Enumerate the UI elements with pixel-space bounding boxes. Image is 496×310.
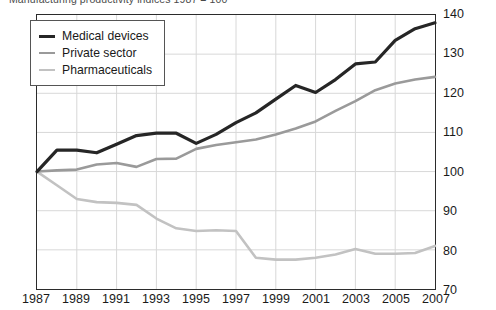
y-tick-label: 100 <box>443 165 464 179</box>
x-tick-label: 1991 <box>102 292 130 306</box>
legend-item[interactable]: Private sector <box>39 45 152 61</box>
x-tick-label: 1993 <box>142 292 170 306</box>
x-tick-label: 1995 <box>182 292 210 306</box>
y-tick-label: 110 <box>443 125 463 139</box>
legend-line-swatch-icon <box>39 35 55 38</box>
legend-line-swatch-icon <box>39 69 55 71</box>
series-line <box>37 172 435 260</box>
legend-line-swatch-icon <box>39 52 55 54</box>
legend-item[interactable]: Medical devices <box>39 28 152 44</box>
x-tick-label: 1997 <box>222 292 250 306</box>
legend-item-label: Medical devices <box>62 29 149 43</box>
y-tick-label: 140 <box>443 7 464 21</box>
y-tick-label: 130 <box>443 46 464 60</box>
legend-item[interactable]: Pharmaceuticals <box>39 62 152 78</box>
y-tick-label: 120 <box>443 86 464 100</box>
chart-legend: Medical devicesPrivate sectorPharmaceuti… <box>30 20 165 86</box>
chart-title: Manufacturing productivity indices 1987 … <box>9 0 227 5</box>
x-tick-label: 2005 <box>382 292 410 306</box>
x-tick-label: 1987 <box>22 292 50 306</box>
y-tick-label: 80 <box>443 244 457 258</box>
x-tick-label: 1989 <box>62 292 90 306</box>
x-tick-label: 1999 <box>262 292 290 306</box>
x-tick-label: 2007 <box>422 292 450 306</box>
legend-item-label: Private sector <box>62 46 137 60</box>
productivity-line-chart: Manufacturing productivity indices 1987 … <box>0 0 496 310</box>
legend-item-label: Pharmaceuticals <box>62 63 152 77</box>
x-tick-label: 2001 <box>302 292 330 306</box>
x-tick-label: 2003 <box>342 292 370 306</box>
y-tick-label: 90 <box>443 204 457 218</box>
